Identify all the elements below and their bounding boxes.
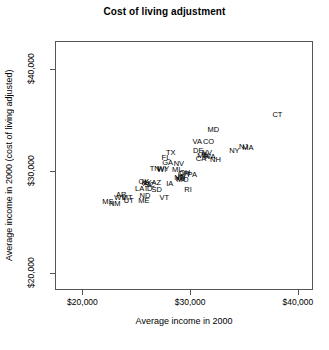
data-point-label: NM [109,200,121,208]
data-point-label: CT [272,111,282,119]
data-point-label: UT [124,197,134,205]
x-axis-label: Average income in 2000 [55,316,313,326]
data-point-label: WI [157,166,166,174]
data-points-layer: CTMDVACONJMANYDENVILMNWANHCATXFLGANVWYMI… [55,41,313,290]
data-point-label: CA [196,155,206,163]
x-axis-tick-mark [82,290,83,295]
x-axis-tick-label: $20,000 [67,297,98,307]
y-axis-tick-mark [50,69,55,70]
data-point-label: RI [184,187,192,195]
data-point-label: MO [177,176,189,184]
x-axis-tick-mark [190,290,191,295]
data-point-label: VT [160,194,170,202]
x-axis-tick-label: $40,000 [283,297,314,307]
y-axis-label: Average income in 2000 (cost of living a… [2,41,15,290]
data-point-label: NY [229,147,239,155]
data-point-label: VA [192,138,201,146]
y-axis-tick-label: $40,000 [26,45,36,93]
data-point-label: MA [242,144,253,152]
data-point-label: PA [188,171,197,179]
data-point-label: IA [166,180,173,188]
y-axis-tick-mark [50,273,55,274]
data-point-label: CO [203,138,214,146]
y-axis-tick-label: $20,000 [26,249,36,297]
data-point-label: ME [138,197,149,205]
x-axis-tick-label: $30,000 [175,297,206,307]
y-axis-tick-mark [50,171,55,172]
y-axis-tick-label: $30,000 [26,147,36,195]
page-title: Cost of living adjustment [0,6,329,17]
x-axis-tick-mark [298,290,299,295]
data-point-label: NH [210,157,221,165]
data-point-label: MD [208,126,220,134]
scatter-plot-figure: Cost of living adjustment Average income… [0,0,329,350]
